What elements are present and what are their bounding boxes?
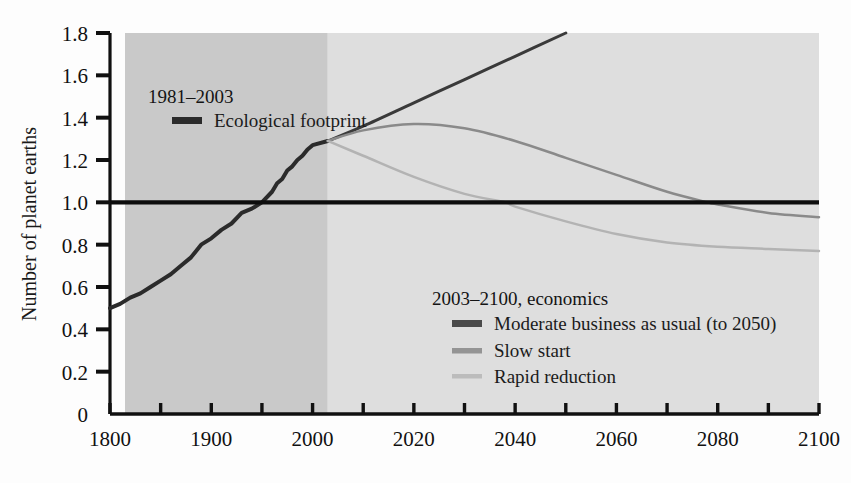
x-tick-label: 2060 — [595, 427, 637, 451]
x-tick-label: 2100 — [798, 427, 840, 451]
y-axis-title: Number of planet earths — [18, 127, 41, 321]
legend-label-ecological-footprint: Ecological footprint — [214, 110, 367, 131]
y-tick-label: 0.6 — [62, 276, 88, 300]
y-tick-label: 0.8 — [62, 234, 88, 258]
y-tick-label: 0.4 — [62, 318, 89, 342]
legend-swatch-slow-start — [452, 348, 482, 354]
y-tick-label: 0.2 — [62, 361, 88, 385]
y-axis-ticks — [96, 33, 110, 414]
x-tick-label: 2000 — [292, 427, 334, 451]
chart-figure: 00.20.40.60.81.01.21.41.61.8 18001900200… — [0, 0, 851, 483]
y-tick-label: 0 — [78, 403, 89, 427]
y-tick-label: 1.0 — [62, 191, 88, 215]
x-tick-label: 2040 — [494, 427, 536, 451]
legend-projection-heading: 2003–2100, economics — [432, 288, 608, 309]
legend-label-moderate-business-as-usual: Moderate business as usual (to 2050) — [494, 313, 776, 335]
x-tick-label: 2020 — [393, 427, 435, 451]
legend-historical-heading: 1981–2003 — [148, 86, 234, 107]
ecological-footprint-chart: 00.20.40.60.81.01.21.41.61.8 18001900200… — [0, 0, 851, 483]
x-tick-label: 1800 — [89, 427, 131, 451]
y-axis: 00.20.40.60.81.01.21.41.61.8 — [62, 22, 110, 427]
y-tick-label: 1.2 — [62, 149, 88, 173]
legend-label-slow-start: Slow start — [494, 340, 571, 361]
y-tick-label: 1.8 — [62, 22, 88, 46]
y-tick-label: 1.4 — [62, 107, 89, 131]
y-axis-tick-labels: 00.20.40.60.81.01.21.41.61.8 — [62, 22, 89, 427]
legend-swatch-ecological-footprint — [172, 117, 202, 124]
x-tick-label: 1900 — [190, 427, 232, 451]
y-tick-label: 1.6 — [62, 64, 88, 88]
x-axis-tick-labels: 18001900200020202040206020802100 — [89, 427, 840, 451]
legend-swatch-moderate-business-as-usual — [452, 320, 482, 327]
x-tick-label: 2080 — [697, 427, 739, 451]
legend-label-rapid-reduction: Rapid reduction — [494, 366, 616, 387]
legend-swatch-rapid-reduction — [452, 374, 482, 379]
